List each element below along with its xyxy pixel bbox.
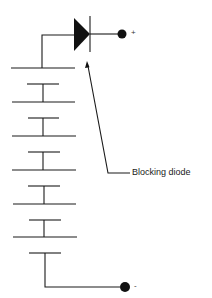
positive-terminal-dot xyxy=(118,30,127,39)
diode-icon xyxy=(74,18,90,51)
arrowhead-icon xyxy=(85,61,90,68)
positive-terminal-symbol: + xyxy=(131,29,136,37)
blocking-diode-label: Blocking diode xyxy=(132,168,191,177)
negative-terminal-dot xyxy=(120,282,130,292)
top-wire xyxy=(42,35,75,68)
bottom-wire xyxy=(45,253,120,287)
negative-terminal-symbol: - xyxy=(134,282,137,290)
battery-stack xyxy=(11,68,77,253)
circuit-diagram xyxy=(0,0,212,298)
diode-leader-line xyxy=(88,66,130,173)
